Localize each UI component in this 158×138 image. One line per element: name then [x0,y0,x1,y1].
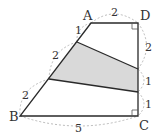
geometry-diagram: A D B C 2 1 2 2 2 1 1 5 [0,0,158,138]
vertex-label-A: A [82,8,93,23]
trapezoid-figure: A D B C 2 1 2 2 2 1 1 5 [0,0,158,138]
length-AD: 2 [111,6,118,19]
arc-Q2-C [138,92,144,116]
length-A-P1: 1 [75,24,82,37]
length-Q1-Q2: 1 [145,75,152,88]
right-angle-C-icon [132,110,138,116]
vertex-label-B: B [9,109,19,124]
vertex-label-D: D [140,8,150,23]
length-P1-P2: 2 [52,49,59,62]
length-P2-B: 2 [22,89,29,102]
length-BC: 5 [75,122,82,135]
length-Q2-C: 1 [145,98,152,111]
vertex-label-C: C [139,118,149,133]
length-D-Q1: 2 [145,41,152,54]
arc-Q1-Q2 [138,69,144,92]
right-angle-D-icon [132,23,138,29]
